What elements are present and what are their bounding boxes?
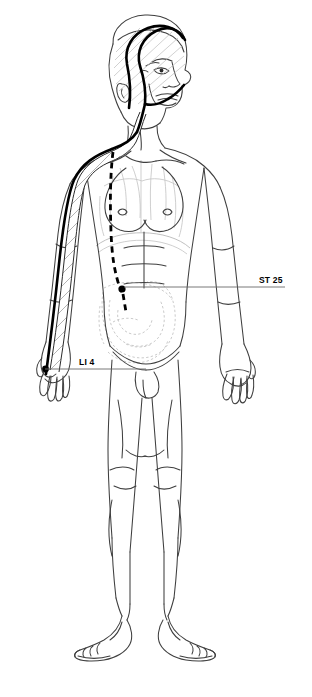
li4-label: LI 4 — [79, 357, 94, 367]
st25-label: ST 25 — [259, 275, 283, 285]
intestines-anatomy — [99, 282, 175, 363]
stomach-meridian-lower — [123, 294, 126, 312]
illustration-canvas: ST 25 LI 4 — [0, 0, 312, 697]
anatomical-figure — [0, 0, 312, 697]
st25-point-marker — [118, 285, 125, 292]
